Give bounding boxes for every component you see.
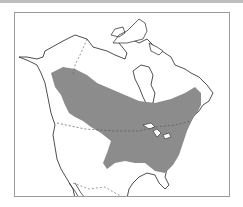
range-map bbox=[15, 13, 230, 197]
map-frame bbox=[14, 12, 230, 197]
top-bar bbox=[0, 0, 243, 3]
